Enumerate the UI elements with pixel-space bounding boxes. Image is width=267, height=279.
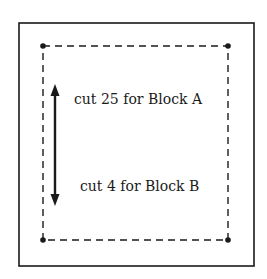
label-block-b: cut 4 for Block B [80, 178, 199, 194]
corner-dot-bottom-right [225, 237, 231, 243]
grain-arrow-icon [51, 84, 60, 206]
corner-dot-top-left [40, 43, 46, 49]
label-block-a: cut 25 for Block A [74, 91, 203, 107]
corner-dot-bottom-left [40, 237, 46, 243]
corner-dot-top-right [225, 43, 231, 49]
seam-line-dashed [43, 46, 228, 240]
quilt-template-diagram: cut 25 for Block A cut 4 for Block B [0, 0, 267, 279]
